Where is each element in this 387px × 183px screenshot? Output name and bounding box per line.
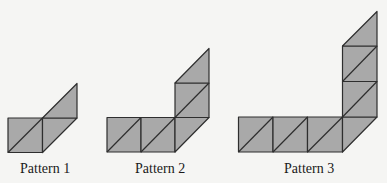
pattern-diagram: Pattern 1 Pattern 2 Pattern 3: [0, 0, 387, 183]
pattern-3-label: Pattern 3: [284, 162, 334, 176]
pattern-2-label: Pattern 2: [135, 162, 185, 176]
pattern-1-figure: [8, 84, 77, 153]
corner-triangle: [343, 117, 378, 152]
top-triangle: [343, 12, 378, 47]
corner-triangle: [43, 118, 78, 153]
top-triangle: [175, 49, 209, 84]
top-triangle: [43, 84, 78, 119]
pattern-1-label: Pattern 1: [20, 162, 70, 176]
pattern-3-figure: [239, 12, 378, 153]
pattern-2-figure: [107, 49, 209, 153]
patterns-figure: [0, 0, 387, 183]
corner-triangle: [175, 118, 209, 153]
